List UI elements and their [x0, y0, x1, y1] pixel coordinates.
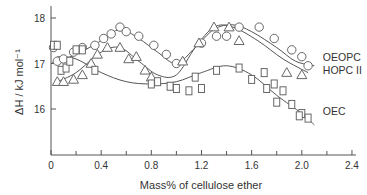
x-axis-label: Mass% of cellulose ether [140, 179, 263, 191]
y-tick-label: 16 [34, 104, 46, 115]
circle-marker-icon [107, 30, 115, 38]
triangle-marker-icon [102, 43, 112, 52]
square-marker-icon [73, 46, 79, 54]
square-marker-icon [280, 87, 286, 95]
y-axis-label: ΔH / kJ mol⁻¹ [13, 49, 25, 115]
square-marker-icon [79, 46, 85, 54]
circle-marker-icon [150, 41, 158, 49]
circle-marker-icon [212, 32, 220, 40]
series-label: HOPC II [323, 64, 362, 76]
square-marker-icon [167, 82, 173, 90]
x-tick-label: 2.4 [345, 160, 359, 171]
x-tick-label: 0.8 [144, 160, 158, 171]
square-marker-icon [92, 66, 98, 74]
triangle-marker-icon [234, 36, 244, 45]
triangle-marker-icon [224, 22, 234, 31]
series-label: OEC [323, 105, 346, 117]
circle-marker-icon [298, 52, 306, 60]
circle-marker-icon [135, 32, 143, 40]
series-label: OEOPC [323, 51, 361, 63]
chart: 00.40.81.21.62.02.4161718 OEOPCHOPC IIOE… [0, 0, 367, 195]
x-tick-label: 2.0 [295, 160, 309, 171]
circle-marker-icon [122, 27, 130, 35]
square-marker-icon [296, 112, 302, 120]
square-marker-icon [148, 80, 154, 88]
circle-marker-icon [99, 34, 107, 42]
square-marker-icon [186, 87, 192, 95]
triangle-marker-icon [209, 22, 219, 31]
square-marker-icon [198, 85, 204, 93]
series-labels: OEOPCHOPC IIOEC [323, 51, 362, 118]
square-marker-icon [261, 69, 267, 77]
circle-marker-icon [162, 50, 170, 58]
circle-marker-icon [255, 23, 263, 31]
square-marker-icon [155, 78, 161, 86]
square-marker-icon [54, 41, 60, 49]
square-marker-icon [173, 85, 179, 93]
circle-marker-icon [288, 46, 296, 54]
triangle-marker-icon [77, 70, 87, 79]
x-tick-label: 1.6 [245, 160, 259, 171]
circle-marker-icon [235, 23, 243, 31]
square-marker-icon [305, 114, 311, 122]
circle-marker-icon [304, 62, 312, 70]
square-marker-icon [249, 75, 255, 83]
axes: 00.40.81.21.62.02.4161718 [34, 6, 359, 171]
square-marker-icon [271, 80, 277, 88]
x-tick-label: 1.2 [195, 160, 209, 171]
square-marker-icon [289, 100, 295, 108]
y-tick-label: 18 [34, 13, 46, 24]
square-marker-icon [264, 85, 270, 93]
x-tick-label: 0 [48, 160, 54, 171]
data-markers [49, 22, 312, 122]
square-marker-icon [274, 98, 280, 106]
triangle-marker-icon [282, 68, 292, 77]
y-tick-label: 17 [34, 59, 46, 70]
circle-marker-icon [91, 41, 99, 49]
circle-marker-icon [222, 32, 230, 40]
circle-marker-icon [270, 34, 278, 42]
x-tick-label: 0.4 [94, 160, 108, 171]
square-marker-icon [236, 64, 242, 72]
triangle-marker-icon [92, 49, 102, 58]
square-marker-icon [214, 66, 220, 74]
square-marker-icon [67, 57, 73, 65]
square-marker-icon [192, 73, 198, 81]
